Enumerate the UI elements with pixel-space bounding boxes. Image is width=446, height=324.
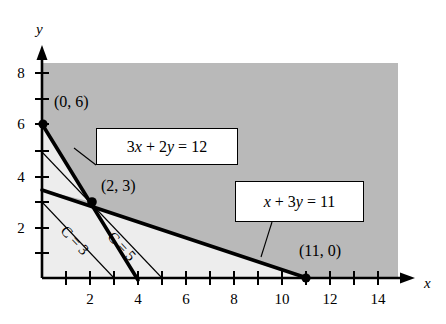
y-tick-label-6: 6: [12, 117, 30, 132]
point-label-11-0: (11, 0): [299, 243, 341, 259]
equation-box-constraint-1: 3x + 2y = 12: [96, 128, 238, 165]
equals-1: =: [174, 138, 191, 155]
x-tick-label-10: 10: [272, 292, 292, 307]
point-label-2-3: (2, 3): [101, 178, 136, 194]
rhs-1: 12: [191, 138, 207, 155]
coef-b-1: 2: [159, 138, 167, 155]
plus-1: +: [142, 138, 159, 155]
equation-text-constraint-2: x + 3y = 11: [264, 193, 336, 211]
x-tick-label-4: 4: [128, 292, 148, 307]
y-tick-label-8: 8: [12, 66, 30, 81]
x-tick-label-2: 2: [80, 292, 100, 307]
x-axis-label: x: [424, 276, 431, 291]
x-tick-label-8: 8: [224, 292, 244, 307]
coef-b-2: 3: [288, 193, 296, 210]
y-tick-label-4: 4: [12, 170, 30, 185]
plus-2: +: [271, 193, 288, 210]
vertex-marker-0-6: [38, 119, 47, 128]
var-y-2: y: [296, 193, 303, 210]
coef-a-1: 3: [127, 138, 135, 155]
x-axis-arrowhead: [400, 273, 415, 284]
vertex-marker-2-3: [87, 197, 97, 207]
x-tick-label-14: 14: [368, 292, 388, 307]
var-x-1: x: [135, 138, 142, 155]
point-label-0-6: (0, 6): [54, 94, 89, 110]
x-tick-label-6: 6: [176, 292, 196, 307]
y-axis-label: y: [36, 22, 43, 37]
y-axis-arrowhead: [37, 45, 48, 60]
x-tick-label-12: 12: [320, 292, 340, 307]
equals-2: =: [303, 193, 320, 210]
rhs-2: 11: [320, 193, 335, 210]
equation-box-constraint-2: x + 3y = 11: [235, 181, 364, 222]
equation-text-constraint-1: 3x + 2y = 12: [127, 138, 207, 156]
y-tick-label-2: 2: [12, 221, 30, 236]
var-x-2: x: [264, 193, 271, 210]
linear-programming-figure: y x 2 4 6 8 10 12 14 2 4 6 8 (0, 6) (2, …: [0, 0, 446, 324]
vertex-marker-11-0: [301, 273, 310, 282]
